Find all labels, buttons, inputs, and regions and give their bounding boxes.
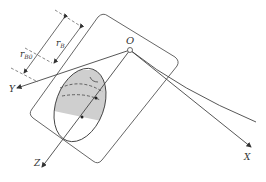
x-axis: [130, 50, 251, 147]
label-rb: rB: [56, 38, 65, 49]
origin-marker: [128, 48, 133, 53]
trajectory-curve: [130, 50, 256, 122]
label-x: X: [243, 152, 251, 162]
label-z: Z: [33, 158, 41, 168]
label-y: Y: [9, 84, 16, 94]
diagram-canvas: O X Y Z rB0 rB: [0, 0, 266, 182]
point-2: [81, 116, 84, 119]
point-1: [95, 97, 98, 100]
dim-ext-bottom: [11, 68, 38, 82]
label-rb0: rB0: [20, 49, 33, 60]
label-origin: O: [126, 35, 134, 46]
